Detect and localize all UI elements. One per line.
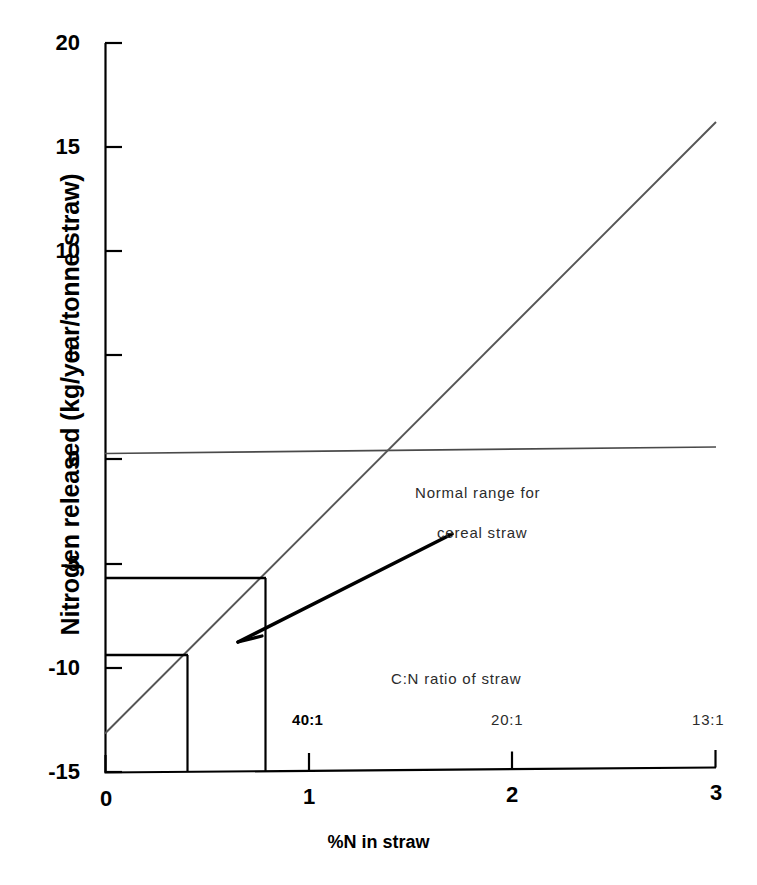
normal-range-pointer-arrow: [238, 534, 452, 642]
nitrogen-release-line: [105, 122, 716, 734]
cn-ratio-caption: C:N ratio of straw: [391, 670, 521, 687]
cn-ratio-label-13: 13:1: [692, 711, 724, 728]
cn-ratio-label-40: 40:1: [292, 711, 323, 728]
normal-range-annotation-line2: cereal straw: [437, 524, 527, 541]
zero-reference-line: [105, 447, 716, 454]
x-axis-spine: [105, 768, 717, 773]
y-axis-ticks: [105, 43, 122, 772]
x-tick-label-1: 1: [289, 786, 329, 808]
x-tick-label-3: 3: [696, 782, 736, 804]
cn-ratio-label-20: 20:1: [491, 711, 523, 728]
chart-figure: 20 15 10 5 0 -5 -10 -15 0 1 2 3 Nitrogen…: [0, 0, 757, 885]
x-tick-label-2: 2: [492, 784, 532, 806]
x-tick-label-0: 0: [86, 788, 126, 810]
y-axis-title: Nitrogen released (kg/year/tonne straw): [56, 35, 85, 775]
plot-area: [0, 0, 757, 885]
normal-range-annotation-line1: Normal range for: [415, 484, 540, 501]
x-axis-title: %N in straw: [0, 832, 757, 853]
